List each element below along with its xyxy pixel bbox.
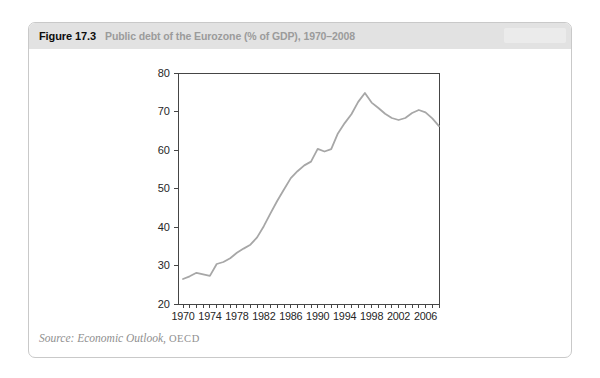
y-axis-label: 50 — [158, 182, 170, 194]
x-axis-label: 2002 — [387, 310, 410, 322]
y-axis-label: 40 — [158, 221, 170, 233]
x-axis-label: 1998 — [360, 310, 383, 322]
figure-header: Figure 17.3 Public debt of the Eurozone … — [29, 23, 571, 49]
x-axis-label: 1970 — [171, 310, 194, 322]
header-watermark — [504, 28, 566, 43]
x-axis-label: 1994 — [333, 310, 356, 322]
figure-card: 2030405060708019701974197819821986199019… — [28, 22, 572, 358]
figure-label: Figure 17.3 — [39, 30, 96, 42]
y-axis-label: 30 — [158, 259, 170, 271]
debt-line — [183, 93, 439, 279]
x-axis-label: 1990 — [306, 310, 329, 322]
x-axis-label: 2006 — [414, 310, 437, 322]
y-axis-label: 20 — [158, 298, 170, 310]
x-axis-label: 1986 — [279, 310, 302, 322]
x-axis-label: 1982 — [252, 310, 275, 322]
source-line: Source: Economic Outlook, OECD — [39, 332, 200, 344]
debt-line-chart: 2030405060708019701974197819821986199019… — [29, 23, 572, 358]
y-axis-label: 70 — [158, 105, 170, 117]
source-org: OECD — [169, 333, 200, 344]
figure-title: Public debt of the Eurozone (% of GDP), … — [105, 30, 355, 42]
page-root: 2030405060708019701974197819821986199019… — [0, 0, 600, 378]
source-text: Source: Economic Outlook, — [39, 332, 166, 344]
x-axis-label: 1974 — [198, 310, 221, 322]
y-axis-label: 60 — [158, 144, 170, 156]
plot-frame — [178, 73, 439, 304]
x-axis-label: 1978 — [225, 310, 248, 322]
y-axis-label: 80 — [158, 67, 170, 79]
